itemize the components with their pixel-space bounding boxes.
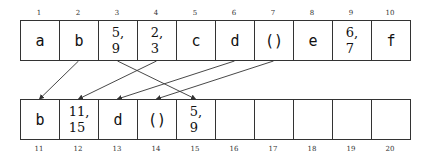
forwarding-arrows	[0, 0, 430, 159]
arrow	[118, 61, 196, 99]
arrow	[118, 61, 235, 99]
arrow	[79, 61, 157, 99]
arrow	[40, 61, 79, 99]
arrow	[157, 61, 274, 99]
